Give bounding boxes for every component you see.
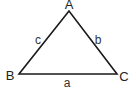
triangle-diagram: A B C a b c [0, 0, 136, 92]
side-label-b: b [95, 33, 102, 47]
side-label-a: a [64, 76, 71, 90]
vertex-label-c: C [119, 69, 128, 84]
vertex-label-b: B [6, 68, 15, 83]
side-label-c: c [35, 33, 41, 47]
triangle-shape [19, 11, 117, 74]
vertex-label-a: A [65, 0, 74, 12]
